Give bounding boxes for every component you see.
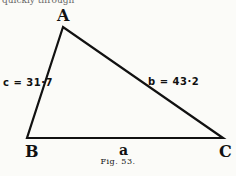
side-label-a: a	[119, 143, 128, 157]
figure: quickly through A B C c = 31·7 b = 43·2 …	[0, 0, 236, 176]
vertex-label-a: A	[57, 8, 69, 24]
side-label-b: b = 43·2	[148, 77, 199, 87]
figure-caption: Fig. 53.	[0, 157, 236, 166]
side-label-c: c = 31·7	[3, 78, 53, 88]
